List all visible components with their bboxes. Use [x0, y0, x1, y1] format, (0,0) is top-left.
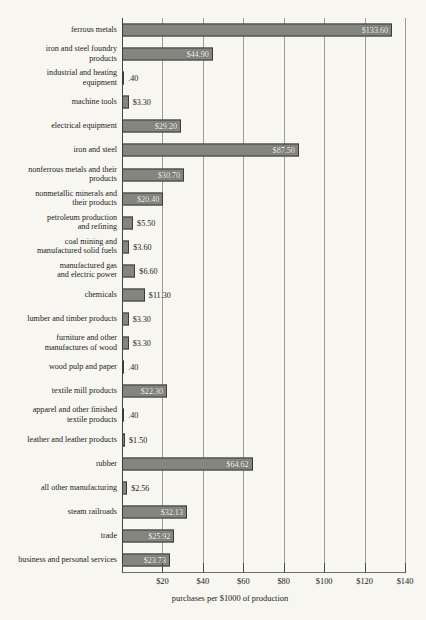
bar-row: leather and leather products$1.50 [122, 427, 405, 451]
bar-value-label: $6.60 [139, 266, 157, 275]
bar-row: apparel and other finished textile produ… [122, 403, 405, 427]
bar-row: wood pulp and paper.40 [122, 355, 405, 379]
bar-value-label: .40 [128, 411, 138, 420]
x-tick-label-20: $20 [156, 577, 169, 586]
bar [122, 481, 127, 494]
bar [122, 216, 133, 229]
bar-value-label: $1.50 [129, 435, 147, 444]
x-axis-title-text: purchases per $1000 of production [172, 594, 288, 603]
x-tick-80 [284, 563, 285, 573]
bar-row: manufactured gas and electric power$6.60 [122, 259, 405, 283]
bar [122, 240, 129, 253]
bar-value-label: $29.20 [155, 122, 177, 131]
bar-row: nonferrous metals and their products$30.… [122, 163, 405, 187]
bar-row: furniture and other manufactures of wood… [122, 331, 405, 355]
x-tick-0 [122, 563, 123, 573]
bar-row: nonmetallic minerals and their products$… [122, 187, 405, 211]
bar-value-label: $3.30 [133, 339, 151, 348]
bar-value-label: $11.30 [149, 290, 171, 299]
bar-row: trade$25.92 [122, 524, 405, 548]
category-label: machine tools [1, 97, 117, 107]
category-label: petroleum production and refining [1, 213, 117, 232]
category-label: ferrous metals [1, 25, 117, 35]
bar-value-label: $64.62 [226, 459, 248, 468]
category-label: iron and steel foundry products [1, 45, 117, 64]
bar-value-label: $2.56 [131, 483, 149, 492]
bar-row: all other manufacturing$2.56 [122, 476, 405, 500]
bar-row: ferrous metals$133.60 [122, 18, 405, 42]
bar-value-label: $25.92 [148, 531, 170, 540]
bar-row: iron and steel$87.50 [122, 138, 405, 162]
bar-value-label: $32.13 [161, 507, 183, 516]
x-tick-label-40: $40 [197, 577, 210, 586]
bar [122, 409, 124, 422]
bar [122, 72, 124, 85]
category-label: chemicals [1, 290, 117, 300]
bar-value-label: $3.30 [133, 315, 151, 324]
x-tick-label-140: $140 [397, 577, 414, 586]
category-label: leather and leather products [1, 435, 117, 445]
category-label: nonmetallic minerals and their products [1, 189, 117, 208]
category-label: rubber [1, 459, 117, 469]
bar-row: chemicals$11.30 [122, 283, 405, 307]
x-tick-60 [243, 563, 244, 573]
bar [122, 24, 392, 37]
bar-value-label: $133.60 [362, 26, 388, 35]
category-label: industrial and heating equipment [1, 69, 117, 88]
bar-value-label: .40 [128, 363, 138, 372]
x-tick-label-120: $120 [356, 577, 373, 586]
category-label: all other manufacturing [1, 483, 117, 493]
category-label: nonferrous metals and their products [1, 165, 117, 184]
gridline-140 [405, 18, 406, 572]
category-label: manufactured gas and electric power [1, 261, 117, 280]
bar-row: iron and steel foundry products$44.90 [122, 42, 405, 66]
bar-value-label: $3.60 [133, 242, 151, 251]
bar-row: industrial and heating equipment.40 [122, 66, 405, 90]
bar-row: machine tools$3.30 [122, 90, 405, 114]
x-tick-label-60: $60 [237, 577, 250, 586]
category-label: textile mill products [1, 387, 117, 397]
x-tick-120 [365, 563, 366, 573]
bar-value-label: $87.50 [273, 146, 295, 155]
category-label: wood pulp and paper [1, 362, 117, 372]
bar-value-label: $44.90 [186, 50, 208, 59]
x-tick-20 [162, 563, 163, 573]
category-label: lumber and timber products [1, 314, 117, 324]
bar-row: lumber and timber products$3.30 [122, 307, 405, 331]
bar-row: steam railroads$32.13 [122, 500, 405, 524]
bar [122, 433, 125, 446]
x-tick-140 [405, 563, 406, 573]
x-tick-label-100: $100 [316, 577, 333, 586]
bar-chart: ferrous metals$133.60iron and steel foun… [0, 0, 426, 620]
bar [122, 337, 129, 350]
bar [122, 288, 145, 301]
bar [122, 264, 135, 277]
bar-value-label: $22.30 [141, 387, 163, 396]
bar-value-label: $3.30 [133, 98, 151, 107]
x-tick-label-80: $80 [277, 577, 290, 586]
category-label: electrical equipment [1, 122, 117, 132]
category-label: steam railroads [1, 507, 117, 517]
bar-row: petroleum production and refining$5.50 [122, 211, 405, 235]
x-axis-title: purchases per $1000 of production [0, 594, 426, 603]
x-tick-40 [203, 563, 204, 573]
bar-value-label: $30.70 [158, 170, 180, 179]
x-tick-100 [324, 563, 325, 573]
bar [122, 313, 129, 326]
bar [122, 96, 129, 109]
category-label: furniture and other manufactures of wood [1, 334, 117, 353]
bar-row: coal mining and manufactured solid fuels… [122, 235, 405, 259]
plot-area: ferrous metals$133.60iron and steel foun… [122, 18, 405, 572]
category-label: iron and steel [1, 146, 117, 156]
bar-row: electrical equipment$29.20 [122, 114, 405, 138]
x-axis-baseline [122, 572, 406, 573]
bar-row: rubber$64.62 [122, 452, 405, 476]
bar [122, 361, 124, 374]
bar-value-label: $20.40 [137, 194, 159, 203]
bar-value-label: .40 [128, 74, 138, 83]
category-label: apparel and other finished textile produ… [1, 406, 117, 425]
bar-row: textile mill products$22.30 [122, 379, 405, 403]
category-label: trade [1, 531, 117, 541]
category-label: business and personal services [1, 555, 117, 565]
category-label: coal mining and manufactured solid fuels [1, 237, 117, 256]
